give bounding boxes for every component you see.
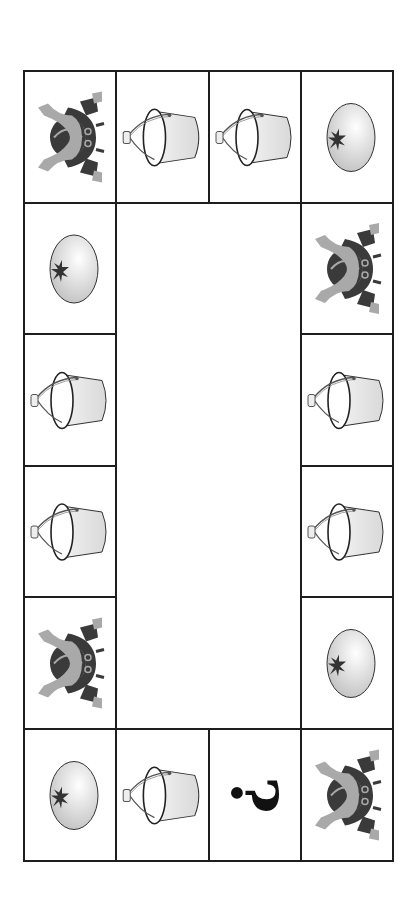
- puzzle-board: ?: [0, 0, 413, 906]
- cell-border: [208, 860, 302, 862]
- cell-border: [115, 202, 117, 335]
- cell-border: [23, 333, 117, 335]
- cell-border: [23, 728, 117, 730]
- cell-border: [208, 202, 302, 204]
- puzzle-cell-bucket: [24, 334, 116, 466]
- samurai-helmet-icon: [24, 71, 116, 203]
- cell-border: [392, 728, 394, 862]
- cell-border: [300, 70, 394, 72]
- puzzle-cell-bucket: [116, 71, 209, 203]
- bucket-icon: [209, 71, 301, 203]
- cell-border: [23, 202, 25, 335]
- cell-border: [300, 728, 302, 862]
- cell-border: [208, 728, 302, 730]
- cell-border: [23, 860, 117, 862]
- cell-border: [23, 70, 117, 72]
- bucket-icon: [116, 71, 209, 203]
- puzzle-cell-bucket: [24, 466, 116, 597]
- cell-border: [300, 202, 302, 335]
- cell-border: [115, 70, 210, 72]
- puzzle-cell-tomato: [24, 203, 116, 334]
- bucket-icon: [24, 334, 116, 466]
- puzzle-cell-bucket: [301, 334, 393, 466]
- cell-border: [23, 333, 25, 467]
- puzzle-cell-helmet: [24, 71, 116, 203]
- tomato-icon: [24, 729, 116, 861]
- cell-border: [23, 596, 117, 598]
- cell-border: [208, 728, 210, 862]
- cell-border: [115, 333, 117, 467]
- cell-border: [392, 333, 394, 467]
- cell-border: [300, 70, 302, 204]
- cell-border: [115, 202, 210, 204]
- cell-border: [23, 465, 117, 467]
- cell-border: [115, 728, 210, 730]
- cell-border: [300, 333, 302, 467]
- tomato-icon: [301, 597, 393, 729]
- puzzle-cell-helmet: [24, 597, 116, 729]
- puzzle-cell-tomato: [301, 71, 393, 203]
- puzzle-cell-helmet: [301, 203, 393, 334]
- cell-border: [300, 465, 302, 598]
- cell-border: [23, 70, 25, 204]
- cell-border: [300, 596, 302, 730]
- cell-border: [115, 70, 117, 204]
- bucket-icon: [301, 334, 393, 466]
- cell-border: [300, 333, 394, 335]
- cell-border: [23, 596, 25, 730]
- cell-border: [23, 465, 25, 598]
- samurai-helmet-icon: [301, 729, 393, 861]
- puzzle-cell-bucket: [301, 466, 393, 597]
- puzzle-cell-bucket: [209, 71, 301, 203]
- question-cell[interactable]: ?: [209, 729, 301, 861]
- cell-border: [300, 728, 394, 730]
- cell-border: [392, 596, 394, 730]
- puzzle-cell-helmet: [301, 729, 393, 861]
- cell-border: [23, 202, 117, 204]
- cell-border: [392, 202, 394, 335]
- cell-border: [392, 465, 394, 598]
- cell-border: [392, 70, 394, 204]
- tomato-icon: [24, 203, 116, 334]
- cell-border: [300, 596, 394, 598]
- cell-border: [23, 728, 25, 862]
- bucket-icon: [24, 466, 116, 597]
- cell-border: [115, 860, 210, 862]
- tomato-icon: [301, 71, 393, 203]
- cell-border: [115, 465, 117, 598]
- samurai-helmet-icon: [24, 597, 116, 729]
- cell-border: [208, 70, 302, 72]
- cell-border: [300, 202, 394, 204]
- puzzle-cell-tomato: [24, 729, 116, 861]
- cell-border: [115, 596, 117, 730]
- cell-border: [300, 860, 394, 862]
- samurai-helmet-icon: [301, 203, 393, 334]
- cell-border: [208, 70, 210, 204]
- bucket-icon: [301, 466, 393, 597]
- puzzle-cell-tomato: [301, 597, 393, 729]
- cell-border: [115, 728, 117, 862]
- cell-border: [300, 465, 394, 467]
